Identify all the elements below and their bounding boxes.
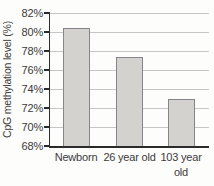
y-tick-label: 80% (8, 25, 43, 39)
y-tick-label: 72% (8, 101, 43, 115)
gridline (50, 13, 209, 14)
y-tick-mark (44, 50, 50, 52)
y-tick-label: 76% (8, 63, 43, 77)
x-tick-label: 26 year old (103, 150, 157, 165)
y-tick-mark (44, 107, 50, 109)
y-tick-label: 78% (8, 44, 43, 58)
y-tick-label: 74% (8, 82, 43, 96)
y-tick-mark (44, 88, 50, 90)
x-tick-label: 103 year old (154, 150, 208, 180)
bar-103-year-old (168, 99, 195, 146)
y-tick-label: 68% (8, 139, 43, 153)
plot-area: 82%80%78%76%74%72%70%68% (50, 13, 209, 146)
y-tick-label: 82% (8, 6, 43, 20)
x-tick-label: Newborn (49, 150, 103, 165)
y-tick-mark (44, 31, 50, 33)
y-tick-mark (44, 145, 50, 147)
y-tick-mark (44, 12, 50, 14)
y-tick-mark (44, 126, 50, 128)
y-tick-label: 70% (8, 120, 43, 134)
bar-newborn (63, 28, 90, 146)
x-axis-line (49, 146, 210, 148)
y-tick-mark (44, 69, 50, 71)
methylation-bar-chart: CpG methylation level (%) 82%80%78%76%74… (0, 0, 214, 186)
bar-26-year-old (116, 57, 143, 146)
